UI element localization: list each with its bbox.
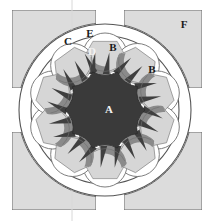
label-D: D <box>88 45 96 57</box>
label-E: E <box>86 27 93 39</box>
cross-section-diagram: ABBCDEF <box>0 0 209 221</box>
label-F: F <box>181 18 188 30</box>
figure-canvas: ABBCDEF <box>0 0 209 221</box>
label-B2: B <box>148 63 156 75</box>
label-B1: B <box>109 41 117 53</box>
label-C: C <box>64 35 72 47</box>
label-A: A <box>105 103 113 115</box>
